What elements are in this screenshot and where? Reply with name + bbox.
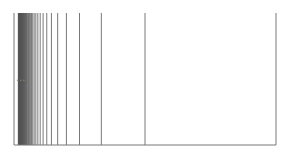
vertical-lines-group xyxy=(18,13,276,145)
ellipsis-label: ... xyxy=(16,72,26,84)
harmonic-lines-diagram xyxy=(0,0,286,156)
